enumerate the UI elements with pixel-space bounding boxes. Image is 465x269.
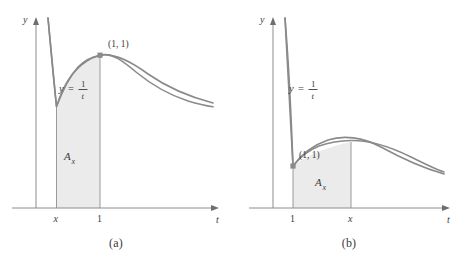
curve-b-main — [285, 18, 444, 172]
panel-a-plot: (1, 1) A x y = 1 t y t x 1 — [0, 0, 232, 240]
y-axis-arrow-b — [270, 17, 276, 25]
figure-root: (1, 1) A x y = 1 t y t x 1 (a) — [0, 0, 465, 269]
equation-operator-b: = — [298, 83, 304, 94]
point-marker-a — [97, 53, 102, 58]
point-label-a: (1, 1) — [108, 39, 129, 50]
tick-label-b-x: x — [347, 213, 353, 224]
area-subscript-b: x — [322, 183, 327, 192]
panel-a: (1, 1) A x y = 1 t y t x 1 (a) — [0, 0, 232, 269]
equation-numerator-a: 1 — [81, 79, 86, 89]
equation-denominator-b: t — [312, 91, 315, 101]
y-axis-label-b: y — [259, 14, 265, 25]
equation-lhs-a: y — [58, 83, 64, 94]
tick-label-a-x: x — [53, 213, 59, 224]
panel-b: (1, 1) A x y = 1 t y t 1 x (b) — [233, 0, 465, 269]
panel-a-caption: (a) — [0, 236, 232, 251]
tick-label-a-one: 1 — [97, 213, 102, 224]
point-label-b: (1, 1) — [299, 150, 320, 161]
panel-b-plot: (1, 1) A x y = 1 t y t 1 x — [233, 0, 465, 240]
y-axis-label-a: y — [22, 14, 28, 25]
area-label-a: A — [63, 150, 71, 162]
tick-label-b-one: 1 — [290, 213, 295, 224]
equation-operator-a: = — [68, 83, 74, 94]
panel-b-caption: (b) — [233, 236, 465, 251]
equation-lhs-b: y — [288, 83, 294, 94]
area-subscript-a: x — [71, 157, 76, 166]
y-axis-arrow-a — [33, 17, 39, 25]
equation-numerator-b: 1 — [311, 79, 316, 89]
t-axis-label-b: t — [447, 214, 450, 225]
area-label-b: A — [314, 176, 322, 188]
t-axis-arrow-a — [211, 205, 219, 211]
t-axis-label-a: t — [216, 214, 219, 225]
shaded-area-a — [57, 55, 101, 208]
point-marker-b — [290, 163, 295, 168]
t-axis-arrow-b — [442, 205, 450, 211]
